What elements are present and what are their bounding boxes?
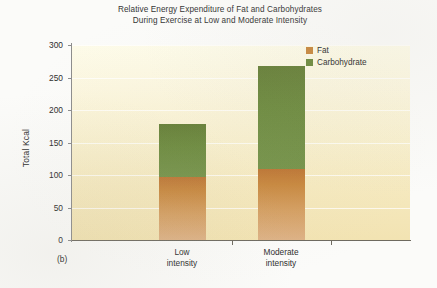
y-tick-label: 100 [33,170,63,180]
bar-low-intensity [159,124,206,240]
gridline [72,143,410,144]
y-tick-mark [68,175,72,176]
legend-item: Fat [306,45,367,56]
y-tick-label: 50 [33,203,63,213]
legend-label: Fat [317,46,329,55]
figure-label: (b) [57,254,67,264]
x-axis-label-line: intensity [137,258,227,269]
legend-item: Carbohydrate [306,57,367,68]
legend-label: Carbohydrate [317,58,367,67]
x-axis-label-line: Low [137,247,227,258]
y-tick-label: 200 [33,105,63,115]
bar-moderate-intensity [258,66,305,240]
x-axis-label-line: Moderate [236,247,326,258]
y-tick-label: 300 [33,40,63,50]
legend-swatch [306,47,313,54]
legend-swatch [306,59,313,66]
y-tick-mark [68,45,72,46]
x-axis-label-line: intensity [236,258,326,269]
x-tick-mark [331,241,332,245]
y-tick-label: 0 [33,235,63,245]
bar-segment-carbohydrate [159,124,206,177]
x-tick-mark [232,241,233,245]
bar-segment-carbohydrate [258,66,305,169]
y-axis-title: Total Kcal [21,113,31,183]
y-tick-label: 250 [33,73,63,83]
y-tick-mark [68,78,72,79]
plot-area [72,45,410,240]
y-tick-mark [68,240,72,241]
chart-title: Relative Energy Expenditure of Fat and C… [60,4,380,26]
chart-title-line-1: Relative Energy Expenditure of Fat and C… [60,4,380,15]
bar-segment-fat [258,169,305,240]
gridline [72,208,410,209]
y-tick-mark [68,208,72,209]
y-tick-mark [68,110,72,111]
x-axis-label: Lowintensity [137,247,227,268]
y-tick-mark [68,143,72,144]
x-axis-label: Moderateintensity [236,247,326,268]
chart-title-line-2: During Exercise at Low and Moderate Inte… [60,15,380,26]
gridline [72,110,410,111]
x-axis-line [71,240,411,241]
chart-legend: FatCarbohydrate [306,45,367,69]
y-tick-label: 150 [33,138,63,148]
gridline [72,175,410,176]
gridline [72,78,410,79]
bar-segment-fat [159,177,206,240]
